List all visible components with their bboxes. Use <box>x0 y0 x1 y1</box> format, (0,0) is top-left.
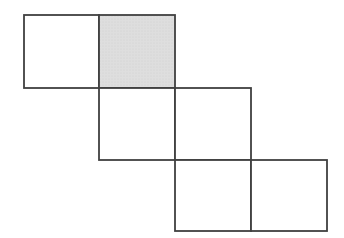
figure-canvas <box>0 0 344 238</box>
square-r1c2 <box>175 88 251 160</box>
square-r1c1 <box>99 88 175 160</box>
squares-diagram <box>0 0 344 238</box>
square-r2c3 <box>251 160 327 231</box>
square-r2c2 <box>175 160 251 231</box>
square-r0c0 <box>24 15 99 88</box>
shaded-square <box>99 15 175 88</box>
squares-group <box>24 15 327 231</box>
